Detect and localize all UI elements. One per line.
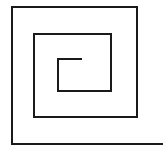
spiral-diagram — [0, 0, 163, 150]
spiral-svg — [0, 0, 163, 150]
square-spiral-line — [12, 7, 163, 144]
